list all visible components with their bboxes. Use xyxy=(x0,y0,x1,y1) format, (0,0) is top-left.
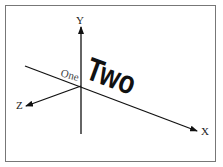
z-axis-label: Z xyxy=(16,99,23,111)
x-axis-label: X xyxy=(201,125,209,137)
axes-diagram: Y X Z One Two xyxy=(0,0,223,167)
z-axis xyxy=(26,86,81,106)
y-axis-label: Y xyxy=(76,14,84,26)
text-two: Two xyxy=(82,50,141,101)
